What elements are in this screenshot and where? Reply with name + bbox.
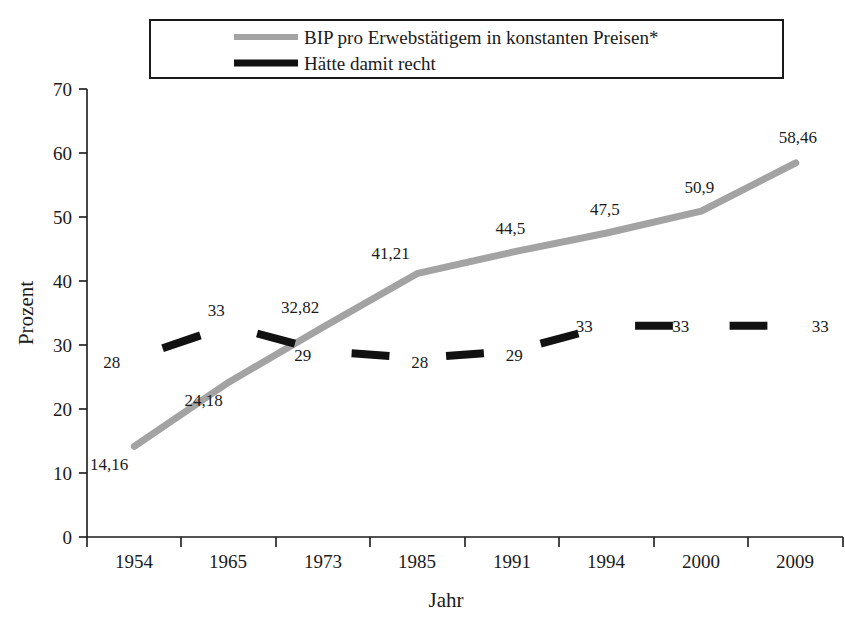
series-line-0 bbox=[134, 163, 796, 447]
x-axis: 1954 1965 1973 1985 1991 1994 2000 2009 … bbox=[87, 537, 843, 612]
y-axis: 70 60 50 40 30 20 10 0 Prozent bbox=[14, 79, 87, 548]
series-layer bbox=[134, 163, 796, 447]
x-tick-label-1973: 1973 bbox=[304, 551, 342, 572]
y-tick-label-40: 40 bbox=[53, 271, 72, 292]
data-label-black-2: 29 bbox=[294, 346, 311, 365]
x-tick-label-2000: 2000 bbox=[682, 551, 720, 572]
y-tick-label-60: 60 bbox=[53, 143, 72, 164]
chart-legend: BIP pro Erwebstätigem in konstanten Prei… bbox=[150, 20, 783, 78]
series-segment-1-3 bbox=[446, 353, 484, 356]
data-label-gray-6: 50,9 bbox=[684, 178, 714, 197]
y-tick-label-20: 20 bbox=[53, 399, 72, 420]
y-axis-title: Prozent bbox=[14, 281, 38, 345]
data-label-gray-4: 44,5 bbox=[495, 219, 525, 238]
y-tick-label-50: 50 bbox=[53, 207, 72, 228]
x-tick-label-1994: 1994 bbox=[587, 551, 626, 572]
series-segment-1-1 bbox=[257, 334, 295, 344]
data-label-gray-2: 32,82 bbox=[281, 298, 319, 317]
y-tick-label-10: 10 bbox=[53, 463, 72, 484]
x-axis-title: Jahr bbox=[429, 588, 464, 612]
series-segment-1-0 bbox=[163, 335, 201, 348]
chart-container: BIP pro Erwebstätigem in konstanten Prei… bbox=[0, 0, 845, 638]
legend-item-label-1: Hätte damit recht bbox=[304, 53, 437, 74]
series-segment-1-4 bbox=[541, 334, 579, 344]
data-label-black-7: 33 bbox=[812, 317, 829, 336]
series-segment-1-2 bbox=[352, 353, 390, 356]
legend-item-label-0: BIP pro Erwebstätigem in konstanten Prei… bbox=[304, 27, 658, 48]
data-label-gray-7: 58,46 bbox=[779, 128, 817, 147]
data-label-gray-5: 47,5 bbox=[590, 200, 620, 219]
data-label-black-6: 33 bbox=[672, 317, 689, 336]
data-label-black-3: 28 bbox=[411, 353, 428, 372]
x-tick-label-1985: 1985 bbox=[398, 551, 436, 572]
data-label-black-0: 28 bbox=[103, 353, 120, 372]
x-tick-label-1965: 1965 bbox=[209, 551, 247, 572]
y-tick-label-0: 0 bbox=[63, 527, 73, 548]
y-tick-label-30: 30 bbox=[53, 335, 72, 356]
x-tick-label-1954: 1954 bbox=[115, 551, 154, 572]
data-label-gray-1: 24,18 bbox=[185, 391, 223, 410]
line-chart: BIP pro Erwebstätigem in konstanten Prei… bbox=[0, 0, 845, 638]
data-label-gray-3: 41,21 bbox=[372, 244, 410, 263]
x-tick-label-2009: 2009 bbox=[776, 551, 814, 572]
data-label-layer: 14,1624,1832,8241,2144,547,550,958,46283… bbox=[90, 128, 829, 475]
y-tick-label-70: 70 bbox=[53, 79, 72, 100]
x-tick-label-1991: 1991 bbox=[493, 551, 531, 572]
data-label-black-1: 33 bbox=[208, 301, 225, 320]
data-label-gray-0: 14,16 bbox=[90, 455, 128, 474]
data-label-black-4: 29 bbox=[506, 346, 523, 365]
data-label-black-5: 33 bbox=[576, 317, 593, 336]
